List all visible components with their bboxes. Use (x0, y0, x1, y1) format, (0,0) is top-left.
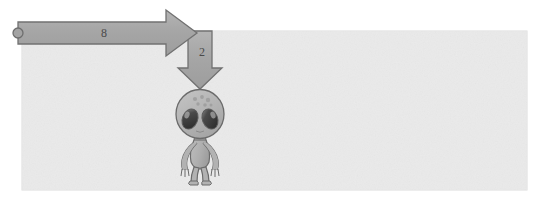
diagram-svg (0, 0, 543, 202)
alien-head (176, 90, 224, 139)
vertical-arrow-label: 2 (192, 46, 212, 58)
diagram-canvas: 8 2 (0, 0, 543, 202)
horizontal-arrow-label: 8 (93, 27, 115, 39)
background-panel (22, 31, 527, 190)
alien-foot-left (189, 181, 199, 185)
alien-foot-right (202, 181, 212, 185)
arrow-tail-endpoint-icon (13, 28, 23, 38)
